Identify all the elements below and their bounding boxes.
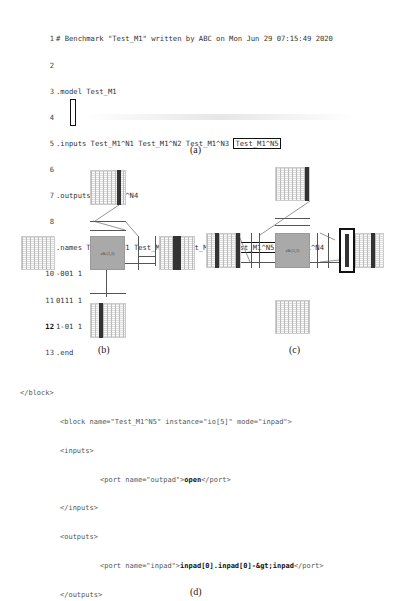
routing-diagonals-b (85, 200, 145, 240)
code-line-3: 3.model Test_M1 (42, 88, 333, 97)
xml-netlist: </block> <block name="Test_M1^N5" instan… (20, 370, 323, 601)
io-block-bottom (90, 303, 126, 338)
highlight-box-inputs-n5: Test_M1^N5 (233, 138, 280, 149)
routing-track-v2 (155, 236, 156, 266)
caption-c: (c) (289, 344, 300, 355)
code-line-10: 10-001 1 (42, 270, 333, 279)
code-line-2: 2 (42, 62, 333, 71)
io-block-right (354, 233, 384, 268)
io-pin-used-right (173, 236, 181, 270)
xml-line: </inputs> (20, 504, 323, 514)
xml-line: <outputs> (20, 533, 323, 543)
routing-diagonals-c (240, 200, 350, 270)
io-pin-used-left-1 (215, 233, 219, 268)
io-block-bottom (275, 300, 310, 334)
io-block-left (21, 236, 55, 270)
caption-a: (a) (190, 144, 201, 155)
xml-line: <inputs> (20, 447, 323, 457)
xml-line: </block> (20, 389, 323, 399)
caption-d: (d) (190, 586, 202, 597)
code-line-5: 5.inputs Test_M1^N1 Test_M1^N2 Test_M1^N… (42, 140, 333, 149)
routing-wire-right2 (138, 256, 155, 257)
code-line-1: 1# Benchmark "Test_M1" written by ABC on… (42, 35, 333, 44)
routing-track-bottom (90, 293, 126, 294)
xml-line: <port name="inpad">inpad[0].inpad[0]-&gt… (20, 562, 323, 572)
io-pin-used-right (371, 233, 375, 268)
routing-wire-right (125, 263, 155, 264)
io-pin-used-bottom (99, 303, 103, 338)
clb-block: clb (1,1) (90, 236, 125, 270)
xml-line: <port name="outpad">open</port> (20, 476, 323, 486)
io-pin-used-top (305, 167, 309, 201)
xml-line: </outputs> (20, 591, 323, 601)
caption-b: (b) (98, 344, 110, 355)
xml-line: <block name="Test_M1^N5" instance="io[5]… (20, 418, 323, 428)
highlight-box-new-io (339, 228, 355, 273)
truth-table-column-highlight (70, 99, 76, 126)
blurred-annotation (85, 114, 355, 120)
routing-track-v1 (138, 236, 139, 270)
